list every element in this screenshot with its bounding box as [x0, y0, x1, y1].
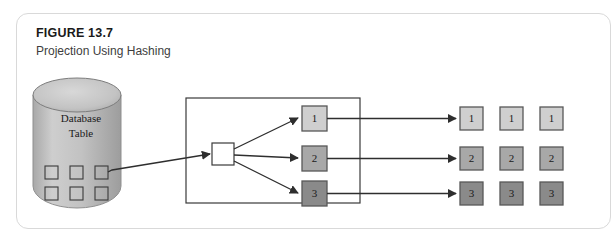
database-table-label-line2: Table: [31, 127, 131, 139]
output-cell: [500, 107, 523, 130]
output-grid: [460, 107, 563, 205]
bucket-1: [302, 106, 327, 131]
hash-function-box: [212, 143, 234, 165]
database-table-label-line1: Database: [31, 112, 131, 124]
bucket-3: [302, 181, 327, 206]
output-cell: [460, 107, 483, 130]
output-cell: [540, 107, 563, 130]
arrow-source-to-hash: [108, 154, 210, 172]
output-cell: [500, 182, 523, 205]
arrow-hash-to-bucket-3: [234, 161, 298, 193]
bucket-2: [302, 146, 327, 171]
output-cell: [540, 147, 563, 170]
arrow-hash-to-bucket-1: [234, 118, 298, 149]
output-cell: [460, 182, 483, 205]
output-cell: [460, 147, 483, 170]
output-cell: [500, 147, 523, 170]
output-cell: [540, 182, 563, 205]
arrow-hash-to-bucket-2: [234, 155, 298, 158]
